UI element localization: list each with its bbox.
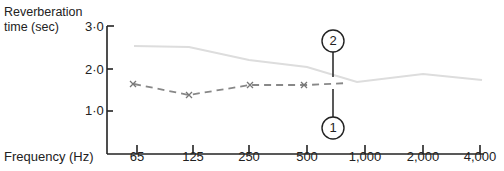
series-1-line xyxy=(134,83,348,95)
chart-plot xyxy=(0,0,504,171)
marker-1-label: 1 xyxy=(327,120,339,135)
series-2-line xyxy=(134,46,482,82)
marker-2-label: 2 xyxy=(327,33,339,48)
